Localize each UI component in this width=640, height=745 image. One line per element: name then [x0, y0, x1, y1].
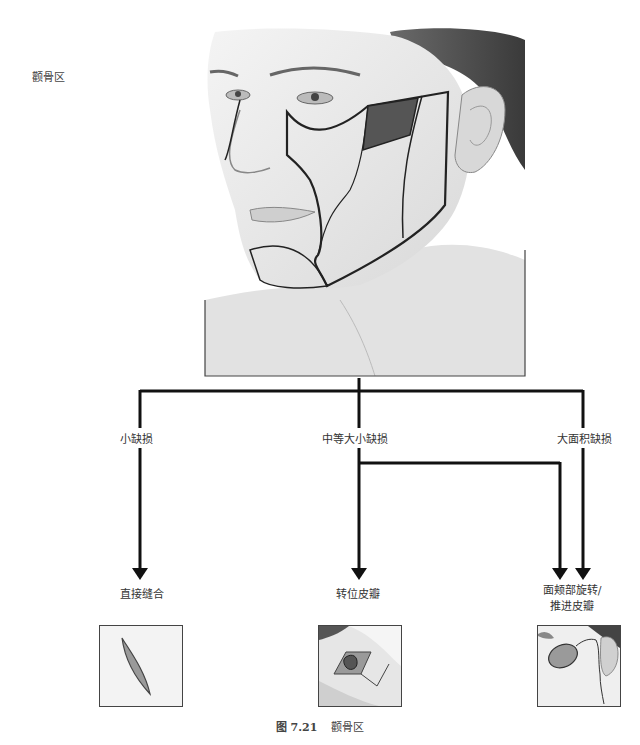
figure-caption: 图 7.21 颧骨区: [0, 718, 640, 734]
figure-title: 颧骨区: [331, 721, 364, 734]
result-label-rotation-flap-line1: 面颊部旋转/: [527, 583, 617, 599]
result-label-rotation-flap: 面颊部旋转/ 推进皮瓣: [527, 583, 617, 615]
branch-label-large-defect: 大面积缺损: [555, 430, 614, 446]
arrowhead-small: [132, 568, 148, 580]
result-label-rotation-flap-line2: 推进皮瓣: [527, 599, 617, 615]
result-label-primary-closure: 直接缝合: [118, 585, 166, 601]
arrowhead-medium-to-large: [552, 568, 568, 580]
thumbnail-transposition-flap: [318, 625, 402, 707]
thumbnail-cheek-rotation-flap: [537, 625, 621, 707]
ear: [455, 87, 505, 173]
branch-label-small-defect: 小缺损: [118, 430, 155, 446]
region-label: 颧骨区: [32, 68, 65, 84]
face-illustration: [200, 0, 530, 378]
figure-number: 图 7.21: [276, 721, 318, 734]
branch-label-medium-defect: 中等大小缺损: [320, 430, 390, 446]
thumbnail-elliptical-excision: [99, 625, 183, 707]
result-label-transposition-flap: 转位皮瓣: [334, 585, 382, 601]
arrowhead-large: [575, 568, 591, 580]
arrowhead-medium: [351, 568, 367, 580]
